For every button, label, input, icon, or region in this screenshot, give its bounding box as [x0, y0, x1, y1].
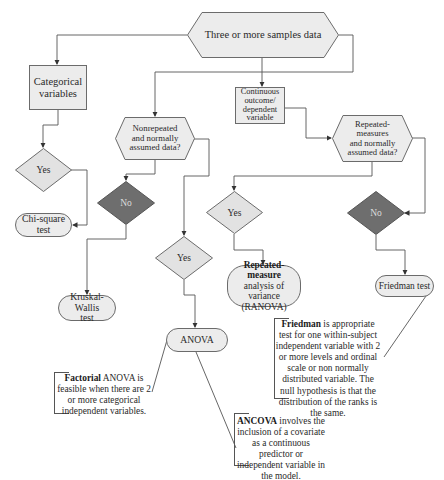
friedman-test-node: Friedman test	[375, 275, 434, 297]
kruskal-wallis-test-node: Kruskal-Wallis test	[58, 295, 116, 321]
friedman-note: Friedman is appropriate test for one wit…	[274, 319, 382, 419]
categorical-label: Categorical variables	[30, 76, 86, 100]
repeated-label-line4: assumed data?	[348, 148, 398, 157]
factorial-note: Factorial ANOVA is feasible when there a…	[56, 373, 152, 417]
ranova-label-line2: analysis of variance	[228, 281, 300, 302]
repeated-label: Repeated- measures and normally assumed …	[332, 115, 413, 162]
nonrepeated-question-node: Nonrepeated and normally assumed data?	[115, 117, 195, 160]
ancova-note: ANCOVA involves the inclusion of a covar…	[236, 416, 326, 480]
repeated-no-diamond: No	[347, 191, 405, 235]
no-label: No	[97, 181, 155, 225]
nonrepeated-yes-diamond: Yes	[155, 236, 213, 280]
friedman-note-text: is appropriate test for one within-subje…	[276, 319, 380, 418]
categorical-yes-diamond: Yes	[15, 148, 72, 192]
ancova-note-bold: ANCOVA	[237, 416, 277, 426]
kruskal-wallis-label-line2: test	[80, 313, 93, 324]
chi-square-label: Chi-square test	[16, 214, 71, 236]
continuous-label-line4: variable	[247, 114, 274, 123]
anova-node: ANOVA	[166, 328, 228, 352]
kruskal-wallis-label-line1: Kruskal-Wallis	[59, 292, 115, 313]
root-node: Three or more samples data	[187, 12, 339, 58]
anova-label: ANOVA	[180, 335, 213, 346]
nonrepeated-no-diamond: No	[97, 181, 155, 225]
yes-label: Yes	[206, 191, 263, 234]
yes-label: Yes	[15, 148, 72, 192]
nonrepeated-label: Nonrepeated and normally assumed data?	[115, 117, 195, 160]
factorial-note-bold: Factorial	[65, 373, 101, 383]
ranova-label-bold: Repeated-measure	[228, 260, 300, 281]
categorical-variables-box: Categorical variables	[29, 65, 87, 110]
chi-square-test-node: Chi-square test	[15, 213, 72, 237]
root-label: Three or more samples data	[187, 12, 339, 58]
no-label: No	[347, 191, 405, 235]
continuous-outcome-box: Continuous outcome/ dependent variable	[235, 87, 285, 124]
friedman-note-bold: Friedman	[281, 319, 321, 329]
yes-label: Yes	[155, 236, 213, 280]
repeated-measures-question-node: Repeated- measures and normally assumed …	[332, 115, 413, 162]
repeated-yes-diamond: Yes	[206, 191, 263, 234]
ranova-node: Repeated-measure analysis of variance (R…	[227, 265, 301, 307]
friedman-label: Friedman test	[379, 281, 430, 292]
ranova-label-line3: (RANOVA)	[241, 302, 286, 313]
